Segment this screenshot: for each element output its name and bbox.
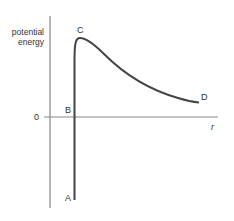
point-label-c: C <box>77 25 84 35</box>
point-label-a: A <box>65 193 71 203</box>
point-label-d: D <box>201 92 208 102</box>
point-label-b: B <box>65 105 71 115</box>
potential-energy-diagram <box>0 0 234 221</box>
potential-energy-curve <box>75 38 200 200</box>
zero-label: 0 <box>34 112 39 122</box>
x-axis-label: r <box>211 122 214 132</box>
